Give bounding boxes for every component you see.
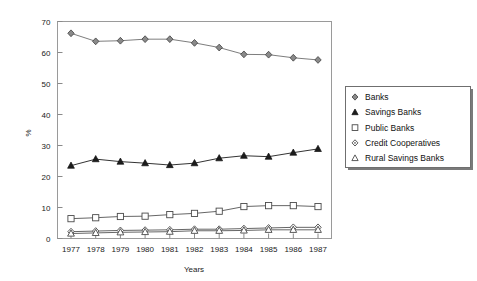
chart-container: 010203040506070 197719781979198019811982… (0, 0, 477, 281)
y-axis-ticks (58, 22, 63, 239)
x-tick-label: 1977 (62, 245, 80, 254)
x-tick-label: 1985 (260, 245, 278, 254)
data-point-open-square (352, 125, 358, 131)
y-tick-label: 30 (42, 142, 51, 151)
series-savings-banks (68, 145, 322, 168)
legend-item-label: Credit Cooperatives (365, 138, 440, 148)
data-point-filled-diamond (191, 39, 197, 46)
x-tick-label: 1984 (235, 245, 253, 254)
data-point-open-square (68, 216, 74, 222)
series-layer (68, 30, 322, 236)
legend-item-label: Public Banks (365, 123, 414, 133)
data-point-filled-diamond (290, 54, 296, 61)
data-point-filled-triangle (241, 152, 248, 158)
data-point-open-square (142, 213, 148, 219)
y-axis-title: % (24, 129, 33, 136)
line-chart: 010203040506070 197719781979198019811982… (0, 0, 477, 281)
y-tick-label: 70 (42, 18, 51, 27)
data-point-filled-diamond (216, 44, 222, 51)
y-tick-label: 20 (42, 173, 51, 182)
y-tick-label: 0 (46, 235, 51, 244)
data-point-filled-diamond (142, 36, 148, 43)
x-tick-label: 1982 (186, 245, 204, 254)
series-banks (68, 30, 321, 63)
x-axis-title: Years (184, 265, 204, 274)
series-public-banks (68, 203, 321, 222)
data-point-filled-diamond (93, 38, 99, 45)
x-tick-label: 1978 (87, 245, 105, 254)
data-point-open-square (117, 213, 123, 219)
data-point-open-square (315, 203, 321, 209)
data-point-filled-diamond (241, 51, 247, 58)
x-tick-label: 1983 (210, 245, 228, 254)
x-tick-label: 1986 (284, 245, 302, 254)
data-point-filled-diamond (117, 37, 123, 44)
data-point-open-square (241, 203, 247, 209)
data-point-filled-triangle (92, 156, 99, 162)
data-point-open-square (167, 212, 173, 218)
x-tick-label: 1979 (112, 245, 130, 254)
data-point-filled-diamond (167, 36, 173, 43)
data-point-open-square (266, 203, 272, 209)
legend-item-rural-savings-banks[interactable]: Rural Savings Banks (352, 153, 444, 163)
y-tick-label: 50 (42, 80, 51, 89)
data-point-open-square (191, 210, 197, 216)
data-point-filled-diamond (68, 30, 74, 37)
x-axis-tick-labels: 1977197819791980198119821983198419851986… (62, 245, 327, 254)
data-point-open-square (216, 208, 222, 214)
y-axis-tick-labels: 010203040506070 (42, 18, 51, 244)
legend-item-credit-cooperatives[interactable]: Credit Cooperatives (352, 138, 440, 148)
x-tick-label: 1981 (161, 245, 179, 254)
x-tick-label: 1980 (136, 245, 154, 254)
data-point-filled-diamond (265, 51, 271, 58)
data-point-filled-triangle (315, 145, 322, 151)
legend-item-label: Banks (365, 92, 389, 102)
y-tick-label: 10 (42, 204, 51, 213)
x-tick-label: 1987 (309, 245, 327, 254)
x-axis-ticks (71, 234, 318, 239)
legend-item-label: Savings Banks (365, 107, 421, 117)
legend-item-label: Rural Savings Banks (365, 153, 444, 163)
data-point-open-square (93, 215, 99, 221)
data-point-filled-diamond (315, 57, 321, 64)
y-tick-label: 40 (42, 111, 51, 120)
y-tick-label: 60 (42, 49, 51, 58)
legend: BanksSavings BanksPublic BanksCredit Coo… (346, 87, 474, 171)
data-point-open-square (290, 203, 296, 209)
